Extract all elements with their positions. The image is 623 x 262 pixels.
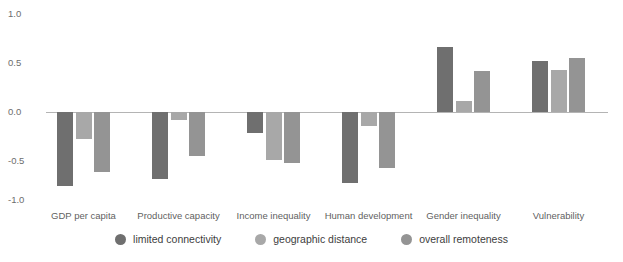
y-tick-label-2: 0.5 <box>8 58 40 68</box>
plot-area <box>46 10 608 204</box>
legend-label: limited connectivity <box>133 233 221 245</box>
bar-group <box>57 10 110 204</box>
bar <box>551 70 567 112</box>
legend-label: overall remoteness <box>419 233 508 245</box>
bar-group <box>342 10 395 204</box>
bar <box>189 112 205 156</box>
bar <box>342 112 358 183</box>
y-tick-label-1: 1.0 <box>8 9 40 19</box>
bar <box>284 112 300 163</box>
bar <box>361 112 377 126</box>
y-tick-label-4: -0.5 <box>8 156 40 166</box>
legend-item[interactable]: overall remoteness <box>401 233 508 245</box>
bar <box>152 112 168 179</box>
bar <box>94 112 110 172</box>
legend-swatch-circle-icon <box>115 234 126 245</box>
bar-chart: 1.0 0.5 0.0 -0.5 -1.0 GDP per capitaProd… <box>0 0 623 262</box>
legend-item[interactable]: geographic distance <box>255 233 367 245</box>
bar <box>437 47 453 112</box>
bar <box>57 112 73 186</box>
bar-group <box>247 10 300 204</box>
bar <box>171 112 187 120</box>
zero-baseline <box>46 112 608 113</box>
x-axis-category-label: Vulnerability <box>499 210 619 221</box>
bar <box>456 101 472 112</box>
bar <box>474 71 490 112</box>
bar <box>247 112 263 133</box>
y-tick-label-3: 0.0 <box>8 107 40 117</box>
bar <box>379 112 395 168</box>
y-tick-label-5: -1.0 <box>8 195 40 205</box>
bar-group <box>532 10 585 204</box>
bar-group <box>437 10 490 204</box>
bar <box>532 61 548 112</box>
bar <box>266 112 282 160</box>
bar <box>76 112 92 139</box>
bar-group <box>152 10 205 204</box>
legend: limited connectivitygeographic distanceo… <box>0 233 623 245</box>
legend-swatch-circle-icon <box>255 234 266 245</box>
legend-item[interactable]: limited connectivity <box>115 233 221 245</box>
legend-label: geographic distance <box>273 233 367 245</box>
legend-swatch-circle-icon <box>401 234 412 245</box>
bar <box>569 58 585 112</box>
